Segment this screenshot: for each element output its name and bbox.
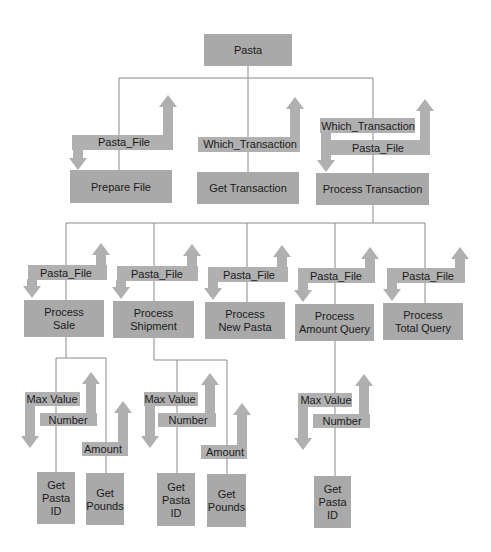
module-label: Process (403, 309, 443, 321)
module-process-shipment: ProcessShipment (113, 301, 194, 338)
module-get-transaction: Get Transaction (197, 172, 299, 204)
arrow-up-icon (114, 401, 132, 413)
module-label: Pasta (318, 496, 347, 508)
flow-leg (145, 405, 155, 436)
module-shipment-get-pasta-id: GetPastaID (157, 473, 195, 526)
module-label: Process (134, 307, 174, 319)
flow-label: Amount (206, 446, 244, 458)
flow-label: Number (168, 414, 207, 426)
module-label: Total Query (395, 322, 452, 334)
arrow-up-icon (416, 99, 434, 111)
flow-label: Pasta_File (402, 270, 454, 282)
flow-leg (116, 280, 126, 287)
arrow-down-icon (141, 436, 159, 448)
module-sale-get-pounds: GetPounds (86, 473, 124, 525)
arrow-down-icon (69, 158, 87, 170)
flow-label: Number (322, 415, 361, 427)
arrow-up-icon (286, 97, 304, 109)
module-label: Get (47, 479, 65, 491)
module-label: Get Transaction (209, 182, 287, 194)
flow-leg (321, 132, 331, 160)
module-label: ID (171, 507, 182, 519)
arrow-up-icon (361, 247, 379, 259)
flow-leg (27, 279, 37, 286)
module-label: Process Transaction (323, 183, 423, 195)
structure-chart: Pasta_FileWhich_TransactionWhich_Transac… (0, 0, 491, 552)
flow-leg (96, 255, 106, 280)
flow-leg (187, 256, 197, 281)
flow-leg (25, 405, 35, 436)
module-process-total-query: ProcessTotal Query (383, 303, 463, 340)
arrow-down-icon (317, 160, 335, 172)
module-label: ID (51, 505, 62, 517)
module-process-amount-query: ProcessAmount Query (295, 304, 374, 341)
module-label: Shipment (130, 320, 176, 332)
flow-leg (73, 149, 83, 158)
flow-label: Pasta_File (310, 270, 362, 282)
flow-label: Pasta_File (352, 142, 404, 154)
flow-get-transaction-which-transaction: Which_Transaction (198, 97, 304, 152)
flow-leg (387, 282, 397, 289)
arrow-down-icon (294, 438, 312, 450)
flow-leg (208, 281, 218, 288)
arrow-down-icon (21, 436, 39, 448)
flow-label: Amount (84, 443, 122, 455)
flow-process-total-query-pasta-file: Pasta_File (383, 247, 469, 301)
flow-label: Max Value (300, 394, 351, 406)
module-label: Get (324, 483, 342, 495)
module-label: Process (44, 306, 84, 318)
arrow-down-icon (204, 288, 222, 300)
flow-leg (298, 282, 308, 290)
flow-leg (298, 406, 308, 438)
data-flow-arrows: Pasta_FileWhich_TransactionWhich_Transac… (21, 95, 469, 459)
flow-label: Pasta_File (98, 136, 150, 148)
flow-leg (277, 257, 287, 282)
arrow-up-icon (183, 244, 201, 256)
module-process-sale: ProcessSale (24, 300, 104, 337)
flow-label: Number (48, 414, 87, 426)
module-label: Pasta (234, 44, 263, 56)
module-label: New Pasta (218, 321, 272, 333)
module-label: Pasta (162, 494, 191, 506)
module-shipment-get-pounds: GetPounds (207, 474, 246, 527)
flow-leg (420, 111, 430, 155)
flow-label: Which_Transaction (321, 120, 415, 132)
flow-process-amount-query-pasta-file: Pasta_File (294, 247, 379, 302)
module-prepare-file: Prepare File (70, 170, 172, 203)
arrow-up-icon (92, 243, 110, 255)
module-label: Sale (53, 319, 75, 331)
module-sale-get-pasta-id: GetPastaID (37, 472, 75, 524)
arrow-up-icon (273, 245, 291, 257)
module-label: Prepare File (91, 181, 151, 193)
flow-label: Pasta_File (131, 268, 183, 280)
module-label: Pounds (208, 501, 246, 513)
module-label: Pounds (86, 500, 124, 512)
arrow-down-icon (383, 289, 401, 301)
flow-process-shipment-pasta-file: Pasta_File (112, 244, 201, 299)
arrow-up-icon (355, 374, 373, 386)
flow-label: Pasta_File (40, 267, 92, 279)
module-label: Get (96, 487, 114, 499)
module-label: Process (315, 310, 355, 322)
flow-label: Max Value (144, 393, 195, 405)
module-amount-query-get-pasta-id: GetPastaID (314, 476, 351, 528)
arrow-up-icon (159, 95, 177, 107)
arrow-up-icon (451, 247, 469, 259)
module-pasta: Pasta (204, 34, 292, 66)
arrow-up-icon (233, 403, 251, 415)
flow-label: Which_Transaction (203, 138, 297, 150)
module-process-transaction: Process Transaction (316, 173, 429, 205)
arrow-up-icon (201, 373, 219, 385)
flow-label: Max Value (26, 393, 77, 405)
flow-leg (163, 107, 173, 150)
module-label: Process (225, 308, 265, 320)
module-process-new-pasta: ProcessNew Pasta (205, 302, 285, 339)
arrow-down-icon (294, 290, 312, 302)
module-label: Pasta (42, 492, 71, 504)
module-label: Amount Query (299, 323, 370, 335)
arrow-down-icon (112, 287, 130, 299)
flow-prepare-file-pasta-file: Pasta_File (69, 95, 177, 170)
module-label: Get (167, 481, 185, 493)
arrow-up-icon (82, 372, 100, 384)
flow-leg (455, 259, 465, 283)
